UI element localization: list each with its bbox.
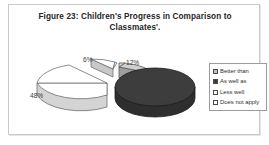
pie-value-label-better-than: 12% [126,59,139,66]
legend-item-less-well[interactable]: Less well [212,87,264,97]
pie-value-label-less-well: 48% [30,92,43,99]
legend-item-label: As well as [220,78,247,85]
pie-slice-less-well [37,65,107,111]
chart-legend: Better than As well as Less well Does no… [209,63,267,111]
figure-frame: Figure 23: Children's Progress in Compar… [8,4,260,135]
legend-swatch-icon [213,79,218,84]
legend-item-better-than[interactable]: Better than [212,66,264,76]
pie-value-label-as-well-as: 34% [157,99,170,106]
legend-item-does-not-apply[interactable]: Does not apply [212,98,264,108]
legend-swatch-icon [213,90,218,95]
legend-item-label: Better than [220,68,249,75]
legend-swatch-icon [213,100,218,105]
legend-swatch-icon [213,69,218,74]
legend-item-as-well-as[interactable]: As well as [212,77,264,87]
pie-chart-plot-area: 12% 34% 48% 6% [29,45,204,125]
pie-slice-as-well-as [115,68,195,117]
pie-slice-does-not-apply [91,59,117,77]
pie-chart-svg [29,45,204,125]
legend-item-label: Less well [220,89,244,96]
pie-value-label-does-not-apply: 6% [83,56,93,63]
chart-title: Figure 23: Children's Progress in Compar… [19,11,251,33]
legend-item-label: Does not apply [220,99,259,106]
